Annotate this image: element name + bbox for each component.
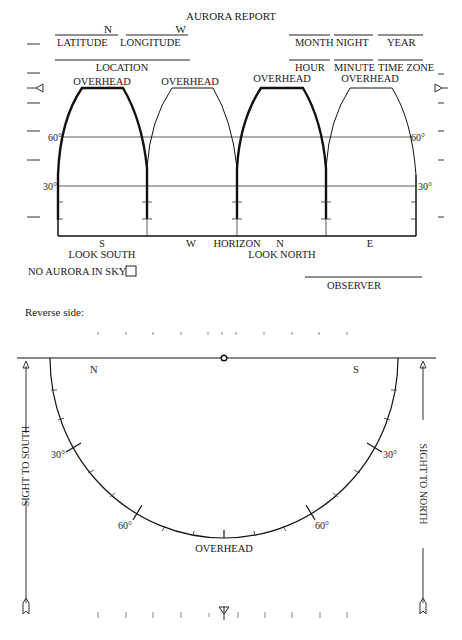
reverse-heading: Reverse side: [25, 306, 84, 318]
panel-east-outline [326, 88, 416, 175]
location-label: LOCATION [96, 62, 149, 73]
horizon-label: HORIZON [213, 238, 261, 249]
panel-east-overhead: OVERHEAD [341, 73, 399, 84]
reverse-top-ticks [98, 332, 347, 335]
arc-major-ticks [66, 443, 382, 538]
look-south-label: LOOK SOUTH [69, 249, 136, 260]
dir-west: W [186, 238, 196, 249]
arc-ticks [51, 390, 397, 536]
sight-north-label: SIGHT TO NORTH [418, 443, 429, 524]
no-aurora-label: NO AURORA IN SKY [28, 266, 127, 277]
panel-south-overhead: OVERHEAD [73, 76, 131, 87]
longitude-label: LONGITUDE [120, 37, 181, 48]
dir-east: E [367, 238, 373, 249]
elev-60-left: 60° [48, 132, 62, 143]
hour-label: HOUR [295, 62, 325, 73]
minute-label: MINUTE [334, 62, 375, 73]
observer-label: OBSERVER [327, 280, 381, 291]
longitude-suffix: W [176, 23, 187, 35]
sight-south-label: SIGHT TO SOUTH [20, 426, 31, 507]
reverse-south: S [353, 364, 359, 375]
right-margin-ticks [438, 74, 444, 217]
panel-west-overhead: OVERHEAD [161, 76, 219, 87]
reverse-overhead: OVERHEAD [195, 543, 253, 554]
panel-north-outline [237, 88, 326, 168]
night-label: NIGHT [336, 37, 369, 48]
aurora-report-drawing: AURORA REPORT N LATITUDE W LONGITUDE MON… [0, 0, 462, 640]
reverse-60-right: 60° [315, 520, 329, 531]
elevation-arc [50, 358, 398, 538]
latitude-label: LATITUDE [57, 37, 108, 48]
form-title: AURORA REPORT [186, 10, 276, 22]
reverse-north: N [90, 364, 98, 375]
right-sight-marker-icon [435, 84, 448, 92]
latitude-suffix: N [104, 23, 112, 35]
dir-north: N [276, 238, 284, 249]
left-sight-marker-icon [27, 84, 43, 92]
month-label: MONTH [295, 37, 334, 48]
reverse-bottom-ticks [98, 612, 347, 618]
dir-south: S [99, 238, 105, 249]
panel-north-overhead: OVERHEAD [253, 73, 311, 84]
look-north-label: LOOK NORTH [248, 249, 316, 260]
panel-west-outline [147, 88, 237, 168]
year-label: YEAR [387, 37, 416, 48]
elev-30-left: 30° [43, 181, 57, 192]
reverse-30-left: 30° [51, 449, 65, 460]
panel-south-outline [58, 88, 147, 220]
left-margin-ticks [27, 44, 40, 217]
elev-30-right: 30° [418, 181, 432, 192]
no-aurora-checkbox[interactable] [126, 266, 136, 276]
reverse-30-right: 30° [383, 449, 397, 460]
time-zone-label: TIME ZONE [378, 62, 434, 73]
reverse-60-left: 60° [118, 520, 132, 531]
plumb-marker-icon [219, 607, 229, 620]
elev-60-right: 60° [411, 132, 425, 143]
pivot-icon [221, 355, 227, 361]
